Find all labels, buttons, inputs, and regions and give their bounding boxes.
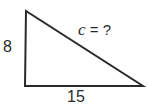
right-triangle-diagram: 8 15 c = ? xyxy=(0,0,148,106)
hypotenuse-equals: = ? xyxy=(86,21,111,38)
hypotenuse-variable: c xyxy=(78,20,86,39)
horizontal-leg-label: 15 xyxy=(67,89,85,105)
vertical-leg-label: 8 xyxy=(3,39,12,55)
hypotenuse-label: c = ? xyxy=(78,21,111,38)
